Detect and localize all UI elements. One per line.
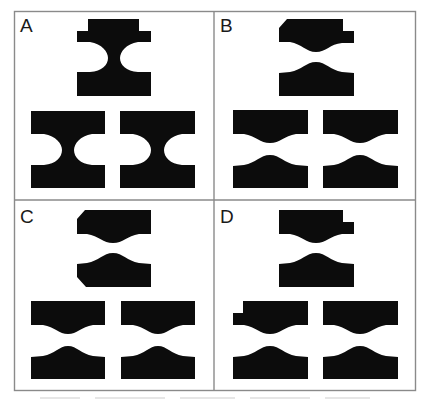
figure-diagram: A B C D: [0, 0, 426, 402]
panel-c-top-upper-piece: [77, 210, 151, 243]
panel-a-bottom-left-shape: [31, 111, 105, 188]
panel-label-a: A: [20, 15, 33, 36]
panel-b-bottom-left-upper-piece: [233, 110, 308, 143]
panel-d-bottom-left-upper-piece: [233, 301, 308, 334]
panel-c: C: [20, 206, 195, 379]
panel-d: D: [220, 206, 398, 379]
panel-d-bottom-right-lower-piece: [323, 346, 398, 379]
panel-label-d: D: [220, 206, 234, 227]
panel-d-top-lower-piece: [279, 253, 354, 287]
panel-b-bottom-left-lower-piece: [233, 155, 308, 188]
panel-b-top-upper-piece: [279, 19, 354, 52]
panel-d-bottom-left-lower-piece: [233, 346, 308, 379]
scan-noise-strip: [40, 397, 370, 399]
panel-c-bottom-right-lower-piece: [121, 346, 195, 379]
panel-a-bottom-right-shape: [120, 111, 195, 188]
figure-frame: [15, 12, 416, 391]
panel-b-top-lower-piece: [279, 62, 354, 96]
panel-c-bottom-right-upper-piece: [121, 301, 195, 334]
panel-c-top-lower-piece: [77, 253, 151, 287]
panel-a: A: [20, 15, 195, 188]
panel-b: B: [220, 15, 398, 188]
panel-b-bottom-right-upper-piece: [323, 110, 398, 143]
panel-c-bottom-left-upper-piece: [31, 301, 105, 334]
panel-b-bottom-right-lower-piece: [323, 155, 398, 188]
panel-label-b: B: [220, 15, 233, 36]
panel-d-bottom-right-upper-piece: [323, 301, 398, 334]
panel-label-c: C: [20, 206, 34, 227]
panel-c-bottom-left-lower-piece: [31, 346, 105, 379]
panel-a-top-shape: [77, 19, 151, 96]
panel-d-top-upper-piece: [279, 210, 354, 243]
